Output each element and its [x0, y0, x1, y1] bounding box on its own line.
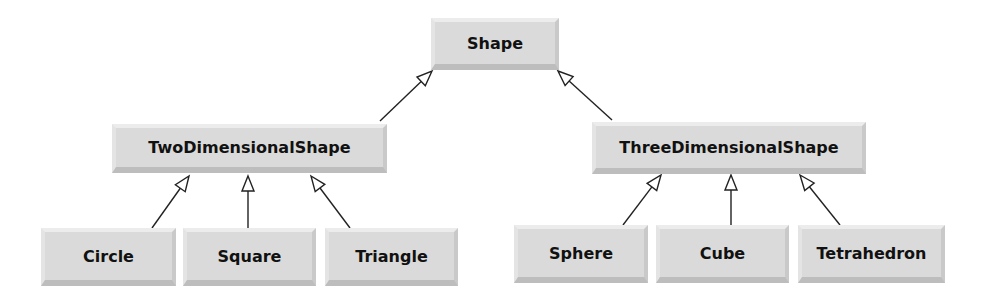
- node-label: Cube: [700, 244, 745, 263]
- edge-line: [623, 187, 652, 225]
- hollow-arrowhead-icon: [417, 71, 432, 86]
- generalization-edge-cube-to-three_dimensional_shape: [725, 175, 737, 225]
- node-label: Shape: [467, 34, 523, 53]
- generalization-edge-tetrahedron-to-three_dimensional_shape: [800, 175, 840, 225]
- node-label: ThreeDimensionalShape: [619, 138, 838, 157]
- edge-line: [809, 187, 840, 225]
- edge-line: [569, 81, 612, 120]
- generalization-edge-circle-to-two_dimensional_shape: [152, 176, 189, 228]
- hollow-arrowhead-icon: [800, 175, 814, 191]
- generalization-edge-square-to-two_dimensional_shape: [242, 176, 254, 228]
- hollow-arrowhead-icon: [175, 176, 189, 192]
- node-square: Square: [183, 228, 316, 286]
- node-label: TwoDimensionalShape: [148, 138, 350, 157]
- hollow-arrowhead-icon: [242, 176, 254, 191]
- node-two-dimensional-shape: TwoDimensionalShape: [112, 124, 387, 173]
- generalization-edge-triangle-to-two_dimensional_shape: [311, 176, 350, 228]
- node-shape: Shape: [431, 18, 559, 70]
- hollow-arrowhead-icon: [311, 176, 325, 192]
- edge-line: [152, 188, 180, 228]
- edge-line: [320, 188, 350, 228]
- hollow-arrowhead-icon: [558, 71, 573, 86]
- node-circle: Circle: [41, 228, 176, 286]
- edge-line: [380, 81, 421, 121]
- hollow-arrowhead-icon: [725, 175, 737, 190]
- node-label: Sphere: [549, 244, 613, 263]
- node-sphere: Sphere: [514, 225, 648, 283]
- node-label: Circle: [83, 247, 134, 266]
- node-label: Square: [218, 247, 282, 266]
- generalization-edge-sphere-to-three_dimensional_shape: [623, 175, 661, 225]
- hollow-arrowhead-icon: [647, 175, 661, 191]
- generalization-edge-two_dimensional_shape-to-shape: [380, 71, 432, 121]
- generalization-edge-three_dimensional_shape-to-shape: [558, 71, 612, 120]
- node-three-dimensional-shape: ThreeDimensionalShape: [592, 122, 866, 174]
- node-tetrahedron: Tetrahedron: [798, 225, 945, 283]
- node-triangle: Triangle: [325, 228, 458, 286]
- node-label: Tetrahedron: [817, 244, 927, 263]
- node-cube: Cube: [656, 225, 789, 283]
- node-label: Triangle: [355, 247, 428, 266]
- inheritance-diagram: Shape TwoDimensionalShape ThreeDimension…: [0, 0, 982, 296]
